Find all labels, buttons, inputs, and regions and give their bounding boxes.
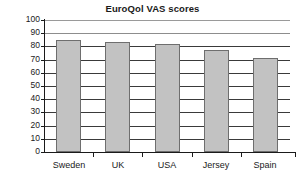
gridline-100 [44, 20, 290, 21]
y-tick-label: 60 [14, 68, 40, 77]
y-tick-mark [41, 20, 45, 21]
y-tick-label: 100 [14, 15, 40, 24]
x-tick-mark [295, 153, 296, 157]
y-tick-label: 10 [14, 134, 40, 143]
y-tick-mark [41, 60, 45, 61]
x-tick-mark [192, 153, 193, 157]
plot-area [44, 20, 290, 152]
y-tick-mark [41, 112, 45, 113]
y-axis-labels: 1009080706050403020100 [12, 0, 40, 181]
gridline-90 [44, 33, 290, 34]
x-tick-mark [241, 153, 242, 157]
chart-title: EuroQol VAS scores [0, 3, 305, 14]
y-tick-mark [41, 99, 45, 100]
bar-usa [155, 44, 180, 152]
y-tick-label: 20 [14, 121, 40, 130]
x-axis-line [44, 152, 296, 153]
y-tick-mark [41, 139, 45, 140]
y-tick-label: 40 [14, 94, 40, 103]
y-tick-mark [41, 33, 45, 34]
y-tick-mark [41, 86, 45, 87]
x-tick-mark [93, 153, 94, 157]
bar-sweden [56, 40, 81, 152]
y-tick-label: 90 [14, 28, 40, 37]
x-tick-mark [142, 153, 143, 157]
y-tick-label: 0 [14, 147, 40, 156]
x-category-label-spain: Spain [235, 160, 295, 171]
y-tick-mark [41, 73, 45, 74]
y-tick-label: 50 [14, 81, 40, 90]
y-tick-mark [41, 126, 45, 127]
y-tick-mark [41, 46, 45, 47]
bar-uk [105, 42, 130, 152]
y-tick-label: 30 [14, 107, 40, 116]
y-tick-label: 80 [14, 41, 40, 50]
y-tick-label: 70 [14, 55, 40, 64]
bar-chart: EuroQol VAS scores 100908070605040302010… [0, 0, 305, 181]
bar-spain [253, 58, 278, 152]
y-tick-mark [41, 152, 45, 153]
bar-jersey [204, 50, 229, 152]
